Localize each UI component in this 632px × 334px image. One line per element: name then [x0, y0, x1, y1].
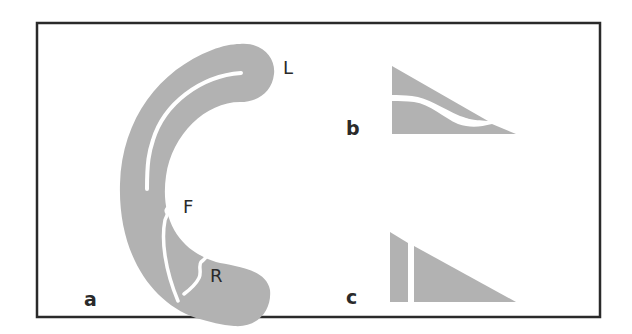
- panel-c: c: [346, 232, 516, 308]
- wedge-right: [414, 246, 516, 302]
- label-F: F: [183, 196, 193, 217]
- figure-canvas: L F R a b c: [0, 0, 632, 334]
- panel-label-c: c: [346, 286, 357, 308]
- label-R: R: [210, 265, 223, 286]
- panel-label-a: a: [84, 288, 97, 310]
- wedge-left-strip: [390, 232, 408, 302]
- label-L: L: [283, 57, 293, 78]
- panel-label-b: b: [346, 117, 360, 139]
- panel-b: b: [346, 66, 516, 139]
- panel-a: L F R a: [84, 44, 293, 326]
